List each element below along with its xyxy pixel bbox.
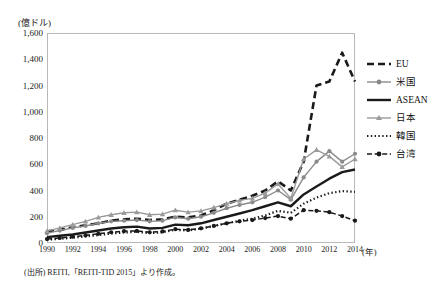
legend-item-日本[interactable]: 日本 — [366, 112, 446, 124]
data-point — [173, 227, 177, 231]
x-axis: 1990199219941996199820002002200420062008… — [47, 245, 355, 259]
legend-key-icon — [366, 94, 392, 106]
y-axis-tick: 1,600 — [23, 29, 43, 38]
x-axis-tick: 2010 — [296, 245, 312, 255]
legend-item-米国[interactable]: 米国 — [366, 76, 446, 88]
data-point — [122, 229, 126, 233]
data-point — [225, 221, 229, 225]
data-point — [353, 152, 357, 156]
legend-key-icon — [366, 130, 392, 142]
legend-item-台湾[interactable]: 台湾 — [366, 148, 446, 160]
x-axis-tick: 2012 — [321, 245, 337, 255]
data-point — [289, 217, 293, 221]
data-point — [96, 221, 100, 225]
x-axis-tick: 2006 — [244, 245, 260, 255]
data-point — [45, 237, 49, 241]
legend-label: 日本 — [396, 112, 416, 124]
x-axis-tick: 1998 — [142, 245, 158, 255]
data-point — [71, 235, 75, 239]
data-point — [352, 156, 357, 161]
data-point — [250, 200, 254, 204]
legend-item-ASEAN[interactable]: ASEAN — [366, 94, 446, 106]
y-axis-tick: 200 — [30, 212, 44, 221]
legend-key-icon — [366, 76, 392, 88]
series-EU — [47, 53, 355, 232]
data-point — [302, 208, 306, 212]
x-axis-tick: 2008 — [270, 245, 286, 255]
chart-root: (億ドル) 02004006008001,0001,2001,4001,600 … — [0, 0, 448, 289]
data-point — [96, 232, 100, 236]
x-axis-tick: 1990 — [39, 245, 55, 255]
data-point — [276, 188, 280, 192]
data-point — [160, 229, 164, 233]
legend-label: EU — [396, 58, 409, 70]
plot-canvas — [47, 33, 355, 243]
data-point — [83, 233, 87, 237]
data-point — [135, 218, 139, 222]
legend-key-icon — [366, 148, 392, 160]
data-point — [83, 224, 87, 228]
legend-label: 台湾 — [396, 148, 416, 160]
x-axis-tick: 2002 — [193, 245, 209, 255]
data-point — [314, 209, 318, 213]
legend-item-EU[interactable]: EU — [366, 58, 446, 70]
data-point — [237, 219, 241, 223]
data-point — [199, 215, 203, 219]
x-axis-tick: 2004 — [219, 245, 235, 255]
data-point — [314, 147, 319, 152]
x-axis-tick: 1994 — [90, 245, 106, 255]
y-axis-tick: 1,400 — [23, 55, 43, 64]
legend-key-icon — [366, 58, 392, 70]
data-point — [109, 219, 113, 223]
data-point — [237, 203, 241, 207]
data-point — [58, 236, 62, 240]
y-axis-tick: 1,000 — [23, 107, 43, 116]
y-axis: 02004006008001,0001,2001,4001,600 — [0, 33, 45, 243]
data-point — [353, 219, 357, 223]
y-axis-tick: 400 — [30, 186, 44, 195]
data-point — [276, 214, 280, 218]
data-point — [327, 149, 331, 153]
data-point — [340, 214, 344, 218]
chart-legend: EU米国ASEAN日本韓国台湾 — [366, 58, 446, 160]
data-point — [314, 160, 318, 164]
data-point — [212, 211, 216, 215]
source-note: (出所) REITI,「REITI-TID 2015」より作成。 — [24, 266, 180, 277]
data-point — [199, 226, 203, 230]
data-point — [109, 230, 113, 234]
data-point — [160, 219, 164, 223]
data-point — [212, 224, 216, 228]
data-point — [263, 195, 267, 199]
legend-label: 韓国 — [396, 130, 416, 142]
data-point — [263, 216, 267, 220]
data-point — [225, 206, 229, 210]
data-point — [250, 218, 254, 222]
y-axis-tick: 1,200 — [23, 81, 43, 90]
data-point — [173, 215, 177, 219]
y-axis-tick: 600 — [30, 160, 44, 169]
x-axis-tick: 2014 — [347, 245, 363, 255]
data-point — [135, 229, 139, 233]
x-axis-tick: 1996 — [116, 245, 132, 255]
x-axis-tick: 1992 — [65, 245, 81, 255]
data-point — [186, 217, 190, 221]
data-point — [122, 219, 126, 223]
data-point — [148, 219, 152, 223]
data-point — [302, 175, 306, 179]
legend-item-韓国[interactable]: 韓国 — [366, 130, 446, 142]
data-point — [186, 228, 190, 232]
x-axis-unit-label: (年) — [362, 245, 377, 257]
data-point — [148, 230, 152, 234]
y-axis-tick: 800 — [30, 134, 44, 143]
data-point — [327, 210, 331, 214]
legend-label: ASEAN — [396, 94, 428, 106]
legend-key-icon — [366, 112, 392, 124]
x-axis-tick: 2000 — [167, 245, 183, 255]
data-point — [340, 160, 344, 164]
legend-label: 米国 — [396, 76, 416, 88]
